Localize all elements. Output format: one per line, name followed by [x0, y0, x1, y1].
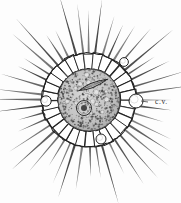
endoplasm-granule: [101, 98, 103, 100]
endoplasm-granule: [104, 118, 105, 119]
endoplasm-granule: [117, 98, 118, 99]
endoplasm-granule: [97, 100, 98, 101]
endoplasm-granule: [75, 80, 76, 81]
endoplasm-granule: [63, 101, 64, 102]
nucleus-speckle: [87, 110, 89, 112]
endoplasm-granule: [79, 122, 81, 124]
endoplasm-vesicle: [95, 102, 99, 106]
endoplasm-granule: [101, 124, 102, 125]
endoplasm-granule: [89, 120, 91, 122]
endoplasm-granule: [96, 108, 97, 109]
endoplasm-granule: [101, 108, 102, 109]
endoplasm-granule: [69, 107, 70, 108]
endoplasm-granule: [70, 100, 71, 101]
endoplasm-vesicle: [101, 110, 105, 114]
endoplasm-granule: [74, 74, 76, 76]
endoplasm-granule: [110, 112, 111, 113]
nucleus-speckle: [81, 103, 83, 105]
endoplasm-granule: [112, 99, 113, 100]
endoplasm-granule: [72, 79, 73, 80]
endoplasm-granule: [70, 91, 71, 92]
endoplasm-granule: [66, 89, 68, 91]
endoplasm-granule: [99, 121, 100, 122]
endoplasm-granule: [76, 98, 78, 100]
endoplasm-granule: [118, 93, 119, 94]
endoplasm-granule: [117, 99, 119, 101]
cv-label: c.v.: [155, 97, 168, 106]
endoplasm-granule: [83, 94, 85, 96]
nucleus-speckle: [77, 108, 78, 109]
endoplasm-granule: [77, 79, 79, 81]
endoplasm-granule: [92, 124, 93, 125]
endoplasm-granule: [58, 94, 60, 96]
endoplasm-granule: [62, 106, 63, 107]
endoplasm-vesicle: [74, 86, 78, 90]
endoplasm-granule: [109, 100, 111, 102]
endoplasm-granule: [117, 106, 118, 107]
endoplasm-granule: [106, 82, 107, 83]
endoplasm-granule: [110, 108, 111, 109]
endoplasm-granule: [100, 96, 102, 98]
endoplasm-granule: [71, 118, 72, 119]
endoplasm-granule: [72, 101, 74, 103]
nucleus-speckle: [84, 109, 85, 110]
endoplasm-granule: [115, 92, 117, 94]
endoplasm-granule: [108, 92, 109, 93]
endoplasm-granule: [76, 117, 77, 118]
endoplasm-granule: [97, 75, 99, 77]
endoplasm-granule: [87, 128, 89, 130]
endoplasm-granule: [115, 97, 117, 99]
endoplasm-granule: [87, 126, 88, 127]
endoplasm-granule: [108, 120, 109, 121]
endoplasm-granule: [93, 105, 94, 106]
endoplasm-granule: [111, 108, 112, 109]
endoplasm-granule: [94, 124, 95, 125]
endoplasm-granule: [109, 106, 111, 108]
endoplasm-granule: [115, 105, 117, 107]
endoplasm-granule: [93, 70, 95, 72]
endoplasm-vesicle: [104, 97, 109, 102]
endoplasm-granule: [104, 83, 106, 85]
endoplasm-granule: [111, 112, 112, 113]
contractile-vacuole-right: [129, 94, 143, 108]
endoplasm-granule: [64, 117, 66, 119]
endoplasm-granule: [67, 117, 68, 118]
endoplasm-granule: [99, 102, 100, 103]
endoplasm-granule: [67, 92, 69, 94]
endoplasm-granule: [71, 104, 73, 106]
endoplasm-granule: [110, 117, 111, 118]
endoplasm-granule: [93, 79, 95, 81]
endoplasm-granule: [101, 89, 102, 90]
endoplasm-granule: [113, 104, 115, 106]
endoplasm-granule: [83, 125, 85, 127]
endoplasm-granule: [65, 88, 66, 89]
endoplasm-granule: [112, 106, 113, 107]
endoplasm-granule: [85, 93, 86, 94]
endoplasm-granule: [98, 125, 100, 127]
endoplasm-granule: [76, 84, 77, 85]
endoplasm-granule: [110, 109, 112, 111]
endoplasm-granule: [114, 113, 115, 114]
endoplasm-granule: [88, 119, 89, 120]
endoplasm-granule: [69, 78, 70, 79]
endoplasm-granule: [104, 103, 105, 104]
endoplasm-granule: [111, 83, 113, 85]
endoplasm-granule: [63, 90, 65, 92]
endoplasm-granule: [63, 110, 64, 111]
endoplasm-granule: [109, 118, 110, 119]
endoplasm-granule: [79, 95, 80, 96]
endoplasm-granule: [110, 92, 112, 94]
endoplasm-granule: [112, 89, 114, 91]
endoplasm-granule: [111, 81, 112, 82]
endoplasm-granule: [113, 83, 114, 84]
endoplasm-granule: [76, 115, 78, 117]
endoplasm-granule: [83, 91, 84, 92]
endoplasm-granule: [80, 124, 82, 126]
endoplasm-granule: [97, 118, 99, 120]
endoplasm-granule: [77, 75, 78, 76]
contractile-vacuole-bottom: [96, 134, 106, 144]
endoplasm-granule: [73, 78, 74, 79]
endoplasm-granule: [95, 120, 96, 121]
endoplasm-granule: [85, 78, 87, 80]
endoplasm-granule: [68, 88, 70, 90]
